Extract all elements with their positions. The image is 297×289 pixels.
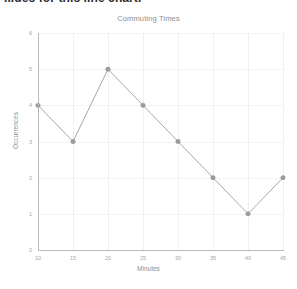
x-axis-spine [38, 250, 284, 251]
y-tick-label: 1 [18, 211, 32, 217]
x-tick-label: 30 [169, 255, 187, 261]
data-point-marker [141, 103, 145, 107]
y-axis-label: Occurrences [12, 91, 19, 171]
line-series [38, 33, 283, 250]
data-point-marker [246, 212, 250, 216]
data-point-marker [71, 139, 75, 143]
x-axis-label: Minutes [0, 265, 297, 272]
data-point-marker [176, 139, 180, 143]
y-tick-label: 3 [18, 139, 32, 145]
y-tick-label: 0 [18, 247, 32, 253]
plot-area [38, 33, 283, 250]
y-tick-label: 5 [18, 66, 32, 72]
x-tick-label: 20 [99, 255, 117, 261]
data-point-marker [211, 175, 215, 179]
data-point-marker [106, 67, 110, 71]
x-tick-label: 10 [29, 255, 47, 261]
x-tick-label: 45 [274, 255, 292, 261]
x-tick-label: 40 [239, 255, 257, 261]
y-tick-label: 4 [18, 102, 32, 108]
x-tick-label: 25 [134, 255, 152, 261]
page-heading-text: ...ues for this line chart. [4, 0, 141, 5]
page-heading-strip: ...ues for this line chart. [0, 0, 297, 9]
data-point-marker [281, 175, 285, 179]
y-axis-spine [38, 33, 39, 251]
y-tick-label: 2 [18, 175, 32, 181]
gridline-vertical [283, 33, 284, 250]
x-tick-label: 15 [64, 255, 82, 261]
series-markers [36, 67, 285, 216]
x-tick-label: 35 [204, 255, 222, 261]
y-tick-label: 6 [18, 30, 32, 36]
chart-figure: Commuting Times 0123456 1015202530354045… [0, 9, 297, 289]
chart-title: Commuting Times [0, 14, 297, 23]
